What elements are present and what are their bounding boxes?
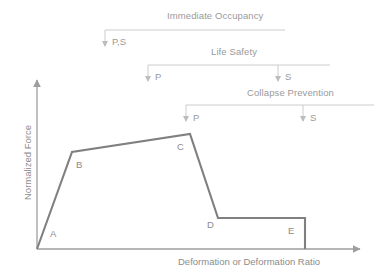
ls-p-arrow-label: P — [155, 71, 161, 82]
io-ps-arrow-label: P,S — [112, 36, 126, 47]
diagram-graphics — [0, 0, 376, 277]
curve-point-label-e: E — [288, 225, 294, 236]
cp-s-arrow-label: S — [310, 112, 316, 123]
life-safety-bracket — [148, 65, 330, 81]
curve-point-label-d: D — [207, 219, 214, 230]
immediate-occupancy-bracket — [105, 30, 285, 46]
life-safety-title: Life Safety — [211, 46, 257, 57]
x-axis-label: Deformation or Deformation Ratio — [178, 256, 320, 267]
curve-point-label-b: B — [76, 159, 82, 170]
cp-p-arrow-label: P — [193, 112, 199, 123]
y-axis-label: Normalized Force — [22, 125, 33, 200]
force-deformation-curve — [37, 134, 305, 249]
collapse-prevention-bracket — [186, 105, 374, 121]
curve-point-label-c: C — [177, 141, 184, 152]
collapse-prevention-title: Collapse Prevention — [247, 87, 334, 98]
immediate-occupancy-title: Immediate Occupancy — [167, 10, 263, 21]
ls-s-arrow-label: S — [285, 71, 291, 82]
curve-point-label-a: A — [50, 228, 56, 239]
figure-canvas: Immediate Occupancy Life Safety Collapse… — [0, 0, 376, 277]
